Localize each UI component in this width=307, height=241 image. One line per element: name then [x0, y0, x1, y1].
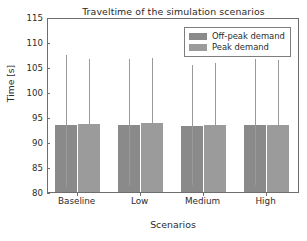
chart-figure: Traveltime of the simulation scenarios T…: [0, 0, 307, 241]
y-axis-tick-labels: 80859095100105110115: [16, 18, 43, 193]
y-tick-mark: [47, 143, 50, 144]
x-tick-mark: [203, 193, 204, 196]
y-tick-label: 100: [19, 88, 43, 98]
error-bar: [152, 58, 153, 188]
y-tick-mark: [47, 118, 50, 119]
x-tick-mark: [77, 193, 78, 196]
chart-title: Traveltime of the simulation scenarios: [47, 6, 300, 17]
x-tick-label: High: [256, 196, 276, 206]
y-tick-mark: [47, 18, 50, 19]
error-bar: [278, 60, 279, 185]
error-bar: [66, 55, 67, 187]
y-tick-mark: [47, 68, 50, 69]
error-bar: [192, 65, 193, 186]
legend-label: Peak demand: [212, 42, 269, 53]
legend-swatch-peak-demand: [189, 44, 207, 51]
x-tick-label: Medium: [185, 196, 220, 206]
x-tick-mark: [266, 193, 267, 196]
error-bar: [215, 63, 216, 184]
y-tick-label: 80: [19, 188, 43, 198]
y-tick-label: 110: [19, 38, 43, 48]
error-bar: [89, 59, 90, 187]
y-tick-label: 115: [19, 13, 43, 23]
y-tick-label: 105: [19, 63, 43, 73]
y-tick-label: 90: [19, 138, 43, 148]
legend-label: Off-peak demand: [212, 31, 285, 42]
y-tick-mark: [47, 193, 50, 194]
x-tick-mark: [140, 193, 141, 196]
x-tick-label: Baseline: [58, 196, 95, 206]
y-tick-mark: [47, 93, 50, 94]
x-axis-title: Scenarios: [47, 219, 299, 230]
legend-swatch-off-peak-demand: [189, 33, 207, 40]
legend-item: Peak demand: [189, 42, 285, 53]
error-bar: [255, 59, 256, 185]
y-tick-label: 85: [19, 163, 43, 173]
y-axis-title: Time [s]: [5, 54, 16, 114]
legend-item: Off-peak demand: [189, 31, 285, 42]
y-tick-label: 95: [19, 113, 43, 123]
y-tick-mark: [47, 168, 50, 169]
y-tick-mark: [47, 43, 50, 44]
x-tick-label: Low: [131, 196, 148, 206]
chart-legend: Off-peak demand Peak demand: [184, 27, 291, 57]
error-bar: [129, 59, 130, 186]
